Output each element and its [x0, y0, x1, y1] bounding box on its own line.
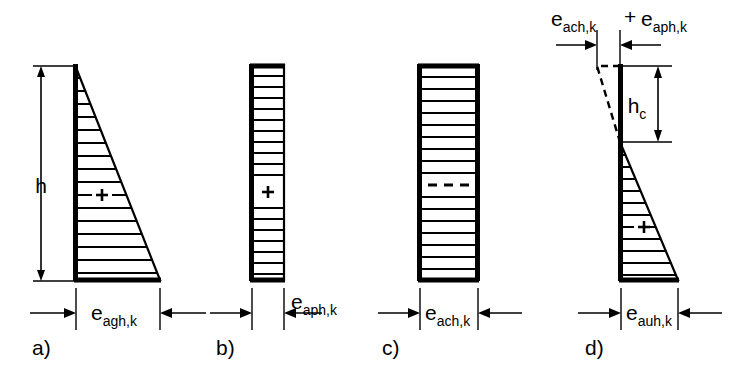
- label-h-c: hc: [628, 94, 647, 122]
- plus-sign-d: [638, 221, 650, 233]
- dimension-h: h: [33, 66, 75, 281]
- dimension-e-auh-k: eauh,k: [578, 288, 722, 330]
- plus-sign-b: [262, 186, 274, 198]
- earth-pressure-figure: h: [0, 0, 747, 366]
- panel-letter-a: a): [32, 336, 51, 359]
- pressure-rect-c: [418, 64, 479, 281]
- label-e-auh-k: eauh,k: [626, 301, 673, 329]
- dimension-h-c: hc: [622, 66, 672, 142]
- label-e-agh-k: eagh,k: [91, 301, 138, 329]
- pressure-triangle-a: [74, 64, 161, 281]
- hatching-b: [251, 76, 284, 274]
- label-e-aph-k-top: eaph,k: [641, 7, 688, 35]
- figure-canvas: h: [0, 0, 747, 366]
- panel-letter-d: d): [585, 336, 604, 359]
- panel-a: h: [30, 64, 206, 359]
- pressure-rect-b: [250, 64, 285, 281]
- label-e-ach-k: each,k: [425, 301, 471, 329]
- top-label-group-d: each,k + eaph,k: [551, 5, 688, 70]
- dimension-e-ach-k: each,k: [378, 288, 522, 330]
- panel-c: each,k c): [378, 64, 522, 359]
- panel-d: each,k + eaph,k: [551, 5, 722, 359]
- dimension-e-agh-k: eagh,k: [30, 288, 206, 330]
- dimension-e-aph-k: eaph,k: [210, 288, 338, 330]
- label-e-ach-k-top: each,k: [551, 7, 597, 35]
- panel-b: eaph,k b): [210, 64, 338, 359]
- panel-letter-b: b): [216, 336, 235, 359]
- height-label-h: h: [35, 174, 47, 197]
- plus-sign-a: [96, 189, 108, 201]
- hatching-c: [419, 77, 478, 269]
- label-plus-operator-top: +: [624, 5, 636, 28]
- panel-letter-c: c): [382, 336, 400, 359]
- negative-wedge-d: [597, 66, 620, 142]
